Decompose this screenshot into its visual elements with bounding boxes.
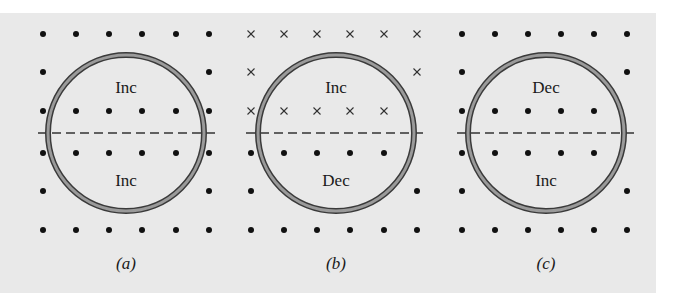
field-out-of-page-dot-icon [591,108,597,114]
panel-caption: (a) [116,254,136,273]
field-out-of-page-dot-icon [591,227,597,233]
field-out-of-page-dot-icon [558,31,564,37]
field-into-page-cross-icon [414,31,421,38]
field-into-page-cross-icon [381,108,388,115]
field-out-of-page-dot-icon [206,227,212,233]
field-out-of-page-dot-icon [106,150,112,156]
field-out-of-page-dot-icon [624,69,630,75]
field-out-of-page-dot-icon [492,150,498,156]
field-out-of-page-dot-icon [492,227,498,233]
field-out-of-page-dot-icon [459,108,465,114]
upper-region-label: Dec [532,78,560,97]
field-out-of-page-dot-icon [558,108,564,114]
field-out-of-page-dot-icon [525,31,531,37]
field-out-of-page-dot-icon [248,150,254,156]
field-out-of-page-dot-icon [381,227,387,233]
field-out-of-page-dot-icon [459,69,465,75]
field-out-of-page-dot-icon [248,188,254,194]
lower-region-label: Inc [115,171,137,190]
field-into-page-cross-icon [281,108,288,115]
field-into-page-cross-icon [314,31,321,38]
field-into-page-cross-icon [248,31,255,38]
field-out-of-page-dot-icon [459,150,465,156]
panel-b: IncDec(b) [246,31,425,274]
field-into-page-cross-icon [414,69,421,76]
upper-region-label: Inc [115,78,137,97]
field-out-of-page-dot-icon [73,150,79,156]
magnetic-field-loop-diagram: IncInc(a)IncDec(b)DecInc(c) [0,0,673,293]
panel-caption: (c) [537,254,556,273]
field-out-of-page-dot-icon [281,150,287,156]
field-out-of-page-dot-icon [139,150,145,156]
field-out-of-page-dot-icon [40,227,46,233]
field-out-of-page-dot-icon [139,108,145,114]
field-out-of-page-dot-icon [591,150,597,156]
field-out-of-page-dot-icon [459,227,465,233]
field-out-of-page-dot-icon [106,108,112,114]
field-out-of-page-dot-icon [173,150,179,156]
field-out-of-page-dot-icon [40,188,46,194]
field-out-of-page-dot-icon [414,227,420,233]
field-out-of-page-dot-icon [40,108,46,114]
field-into-page-cross-icon [248,69,255,76]
field-out-of-page-dot-icon [206,69,212,75]
field-out-of-page-dot-icon [106,31,112,37]
field-out-of-page-dot-icon [173,227,179,233]
field-out-of-page-dot-icon [40,31,46,37]
field-out-of-page-dot-icon [459,188,465,194]
field-out-of-page-dot-icon [106,227,112,233]
field-out-of-page-dot-icon [414,188,420,194]
field-out-of-page-dot-icon [139,227,145,233]
field-out-of-page-dot-icon [558,227,564,233]
field-out-of-page-dot-icon [525,150,531,156]
field-out-of-page-dot-icon [139,31,145,37]
field-out-of-page-dot-icon [206,31,212,37]
field-out-of-page-dot-icon [459,31,465,37]
field-into-page-cross-icon [347,108,354,115]
field-out-of-page-dot-icon [492,31,498,37]
upper-region-label: Inc [325,78,347,97]
field-into-page-cross-icon [281,31,288,38]
field-out-of-page-dot-icon [40,69,46,75]
field-out-of-page-dot-icon [73,227,79,233]
field-out-of-page-dot-icon [206,188,212,194]
field-out-of-page-dot-icon [281,227,287,233]
panel-c: DecInc(c) [457,31,635,273]
field-out-of-page-dot-icon [624,31,630,37]
field-out-of-page-dot-icon [525,227,531,233]
lower-region-label: Inc [535,171,557,190]
field-out-of-page-dot-icon [73,31,79,37]
lower-region-label: Dec [322,171,350,190]
field-out-of-page-dot-icon [381,150,387,156]
field-out-of-page-dot-icon [248,227,254,233]
field-out-of-page-dot-icon [173,108,179,114]
field-out-of-page-dot-icon [40,150,46,156]
field-out-of-page-dot-icon [206,108,212,114]
field-into-page-cross-icon [314,108,321,115]
panel-caption: (b) [326,254,346,273]
field-out-of-page-dot-icon [314,227,320,233]
field-out-of-page-dot-icon [492,108,498,114]
field-out-of-page-dot-icon [347,227,353,233]
panel-a: IncInc(a) [38,31,217,273]
field-out-of-page-dot-icon [206,150,212,156]
field-out-of-page-dot-icon [591,31,597,37]
field-into-page-cross-icon [347,31,354,38]
field-out-of-page-dot-icon [624,227,630,233]
field-out-of-page-dot-icon [173,31,179,37]
field-out-of-page-dot-icon [558,150,564,156]
field-out-of-page-dot-icon [525,108,531,114]
field-out-of-page-dot-icon [347,150,353,156]
field-into-page-cross-icon [381,31,388,38]
field-out-of-page-dot-icon [314,150,320,156]
field-out-of-page-dot-icon [73,108,79,114]
field-out-of-page-dot-icon [624,188,630,194]
field-into-page-cross-icon [248,108,255,115]
